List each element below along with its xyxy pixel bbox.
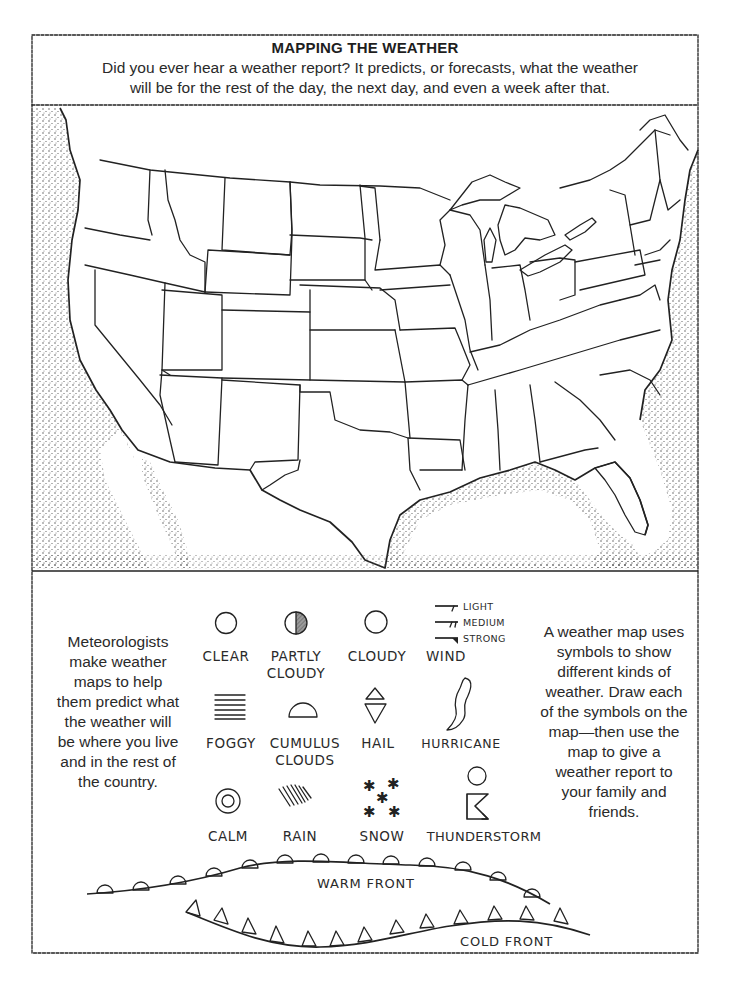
- label-wind: WIND: [418, 648, 474, 665]
- label-clear: CLEAR: [191, 648, 261, 665]
- text-line: the country.: [44, 772, 192, 792]
- label-rain: RAIN: [270, 828, 330, 845]
- text-line: friends.: [528, 802, 700, 822]
- label-foggy: FOGGY: [196, 735, 266, 752]
- right-description: A weather map uses symbols to show diffe…: [528, 622, 700, 822]
- label-cloudy: CLOUDY: [342, 648, 412, 665]
- label-cumulus-clouds: CUMULUSCLOUDS: [268, 735, 342, 769]
- text-line: be where you live: [44, 732, 192, 752]
- us-map: [33, 108, 698, 569]
- text-line: your family and: [528, 782, 700, 802]
- wind-light-label: LIGHT: [463, 601, 493, 612]
- rain-symbol-icon: [279, 785, 311, 806]
- text-line: symbols to show: [528, 642, 700, 662]
- label-snow: SNOW: [350, 828, 414, 845]
- cloudy-symbol-icon: [365, 611, 387, 633]
- atlantic-ocean: [590, 150, 698, 568]
- text-line: different kinds of: [528, 662, 700, 682]
- text-line: A weather map uses: [528, 622, 700, 642]
- svg-text:✱: ✱: [388, 803, 401, 821]
- lake-huron: [498, 205, 555, 255]
- clear-symbol-icon: [216, 613, 237, 634]
- snow-symbol-icon: ✱ ✱ ✱ ✱ ✱: [363, 775, 401, 821]
- text-line: them predict what: [44, 692, 192, 712]
- text-line: make weather: [44, 652, 192, 672]
- hurricane-symbol-icon: [447, 678, 471, 730]
- label-hurricane: HURRICANE: [416, 735, 506, 752]
- cumulus-symbol-icon: [289, 703, 317, 717]
- left-description: Meteorologists make weather maps to help…: [44, 632, 192, 792]
- text-line: the weather will: [44, 712, 192, 732]
- lake-superior: [450, 175, 520, 210]
- wind-strong-label: STRONG: [463, 633, 506, 644]
- partly-cloudy-symbol-icon: [285, 612, 307, 634]
- svg-text:✱: ✱: [363, 777, 376, 795]
- text-line: weather. Draw each: [528, 682, 700, 702]
- text-line: map to give a: [528, 742, 700, 762]
- label-thunderstorm: THUNDERSTORM: [418, 828, 550, 845]
- wind-medium-label: MEDIUM: [463, 617, 505, 628]
- intro-paragraph: Did you ever hear a weather report? It p…: [70, 58, 670, 98]
- text-line: of the symbols on the: [528, 702, 700, 722]
- page-title: MAPPING THE WEATHER: [0, 39, 730, 56]
- wind-symbol-icon: [435, 606, 458, 644]
- hail-symbol-icon: [365, 688, 386, 723]
- intro-line-2: will be for the rest of the day, the nex…: [70, 78, 670, 98]
- cold-front-label: COLD FRONT: [460, 934, 553, 949]
- lake-ontario: [565, 218, 596, 240]
- svg-text:✱: ✱: [387, 775, 400, 793]
- thunderstorm-symbol-icon: [467, 767, 488, 819]
- lake-michigan: [484, 228, 496, 262]
- svg-text:✱: ✱: [363, 803, 376, 821]
- label-calm: CALM: [196, 828, 260, 845]
- intro-line-1: Did you ever hear a weather report? It p…: [70, 58, 670, 78]
- calm-symbol-icon: [216, 789, 240, 813]
- text-line: map—then use the: [528, 722, 700, 742]
- text-line: maps to help: [44, 672, 192, 692]
- svg-text:✱: ✱: [376, 789, 389, 807]
- label-partly-cloudy: PARTLYCLOUDY: [261, 648, 331, 682]
- text-line: Meteorologists: [44, 632, 192, 652]
- text-line: weather report to: [528, 762, 700, 782]
- text-line: and in the rest of: [44, 752, 192, 772]
- warm-front-label: WARM FRONT: [317, 876, 415, 891]
- foggy-symbol-icon: [215, 695, 245, 719]
- label-hail: HAIL: [350, 735, 406, 752]
